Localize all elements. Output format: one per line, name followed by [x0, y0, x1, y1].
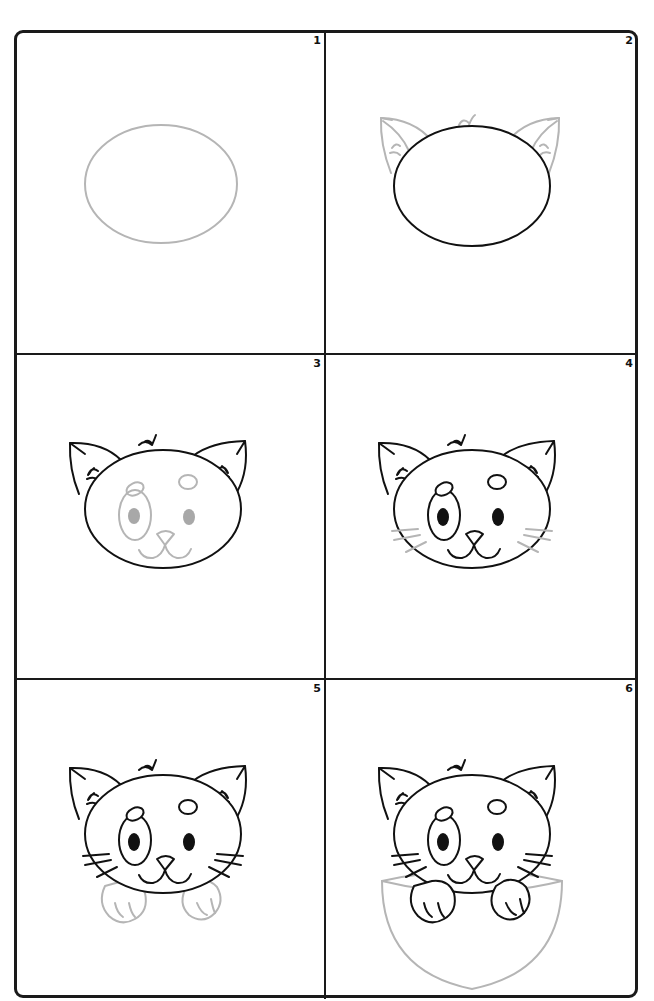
step-panel-4: 4: [326, 356, 636, 678]
step-panel-6: 6: [326, 681, 636, 998]
whiskers-inked-paws-guide-drawing: [17, 681, 324, 998]
row-divider-1: [15, 353, 637, 355]
face-inked-whiskers-guide-drawing: [326, 356, 636, 678]
finished-cat-in-pocket-drawing: [326, 681, 636, 998]
head-oval: [394, 126, 550, 246]
head-and-ears-drawing: [326, 33, 636, 353]
face-features-guide-drawing: [17, 356, 324, 678]
head-oval-guide-drawing: [17, 33, 324, 353]
step-panel-5: 5: [17, 681, 324, 998]
row-divider-2: [15, 678, 637, 680]
step-panel-2: 2: [326, 33, 636, 353]
step-panel-1: 1: [17, 33, 324, 353]
step-panel-3: 3: [17, 356, 324, 678]
